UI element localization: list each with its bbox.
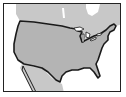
map-frame [3,3,121,92]
us-outline-map [4,4,121,92]
lake-michigan [82,34,84,42]
